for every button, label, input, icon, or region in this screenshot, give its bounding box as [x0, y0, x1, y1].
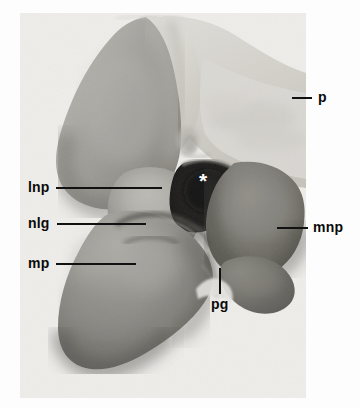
label-p: p	[318, 90, 327, 104]
label-mnp: mnp	[313, 220, 343, 234]
figure-container: * lnp nlg mp p mnp pg	[0, 0, 360, 408]
sem-micrograph	[20, 13, 306, 398]
micrograph-canvas	[20, 13, 306, 398]
